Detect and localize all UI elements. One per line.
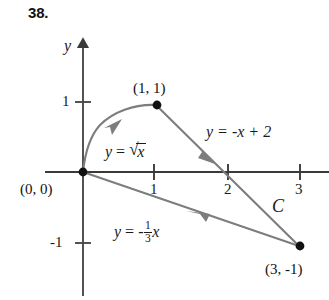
coordinate-plot: [0, 0, 329, 300]
figure-container: 38.: [0, 0, 329, 300]
sqrt-curve: [83, 105, 156, 172]
point-dot-origin: [79, 168, 88, 177]
radical-sign: √ x: [129, 142, 146, 160]
fraction-denominator: 3: [144, 233, 152, 245]
equation-label-line-down: y = -x + 2: [206, 124, 271, 140]
y-tick-label-neg1: -1: [50, 235, 63, 250]
x-tick-label-3: 3: [295, 182, 303, 197]
line-back-direction-arrow: [186, 211, 210, 222]
fraction-numerator: 1: [144, 220, 152, 233]
line-back-operator: =: [125, 223, 134, 240]
equation-label-sqrt: y = √ x: [105, 142, 146, 160]
line-back-lhs: y: [114, 223, 121, 240]
line-back-variable: x: [152, 223, 159, 240]
fraction-one-third: 13: [144, 220, 152, 244]
sqrt-glyph: √: [129, 141, 138, 158]
point-label-corner: (3, -1): [265, 262, 303, 277]
x-axis: [45, 164, 329, 180]
equation-label-line-back: y = -13x: [114, 220, 159, 244]
line-back-sign: -: [138, 223, 143, 240]
point-dot-peak: [153, 101, 162, 110]
y-tick-label-1: 1: [62, 94, 70, 109]
sqrt-eq-lhs: y: [105, 143, 112, 160]
x-tick-label-1: 1: [150, 182, 158, 197]
point-dot-corner: [296, 242, 305, 251]
sqrt-eq-operator: =: [116, 143, 125, 160]
point-label-peak: (1, 1): [133, 81, 166, 96]
x-tick-label-2: 2: [224, 182, 232, 197]
point-label-origin: (0, 0): [20, 182, 53, 197]
sqrt-direction-arrow: [104, 119, 122, 135]
curve-name-label: C: [272, 197, 284, 215]
y-axis-label: y: [64, 38, 71, 54]
